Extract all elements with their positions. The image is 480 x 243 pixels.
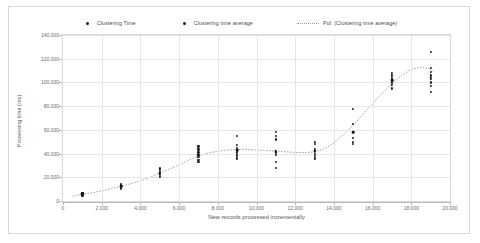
data-point-clustering-time-average bbox=[158, 172, 161, 175]
gridline-vertical bbox=[295, 35, 296, 201]
plot-area bbox=[62, 34, 451, 202]
gridline-vertical bbox=[179, 35, 180, 201]
x-tick-label: 2.000 bbox=[95, 205, 108, 211]
x-tick-label: 6.000 bbox=[173, 205, 186, 211]
x-tick-label: 16.000 bbox=[365, 205, 380, 211]
data-point-clustering-time-average bbox=[120, 185, 123, 188]
plot-wrapper: Processing time (ms) New records process… bbox=[9, 7, 471, 235]
chart-container: Clustering Time Clustering time average … bbox=[8, 6, 470, 234]
data-point-clustering-time-average bbox=[429, 76, 432, 79]
x-tick-label: 10.000 bbox=[249, 205, 264, 211]
x-tick-label: 4.000 bbox=[134, 205, 147, 211]
x-tick-label: 18.000 bbox=[404, 205, 419, 211]
data-point-clustering-time-average bbox=[197, 153, 200, 156]
gridline-vertical bbox=[373, 35, 374, 201]
gridline-vertical bbox=[140, 35, 141, 201]
x-tick-label: 20.000 bbox=[442, 205, 457, 211]
x-tick-label: 8.000 bbox=[212, 205, 225, 211]
data-point-clustering-time-average bbox=[352, 131, 355, 134]
x-tick-label: 0 bbox=[62, 205, 65, 211]
x-tick-label: 14.000 bbox=[326, 205, 341, 211]
data-point-clustering-time-average bbox=[81, 193, 84, 196]
gridline-vertical bbox=[257, 35, 258, 201]
gridline-vertical bbox=[102, 35, 103, 201]
gridline-vertical bbox=[334, 35, 335, 201]
data-point-clustering-time-average bbox=[236, 149, 239, 152]
data-point-clustering-time-average bbox=[275, 150, 278, 153]
data-point-clustering-time-average bbox=[313, 150, 316, 153]
gridline-vertical bbox=[411, 35, 412, 201]
x-tick-label: 12.000 bbox=[288, 205, 303, 211]
x-axis-line bbox=[62, 202, 451, 203]
gridline-vertical bbox=[218, 35, 219, 201]
data-point-clustering-time-average bbox=[391, 79, 394, 82]
